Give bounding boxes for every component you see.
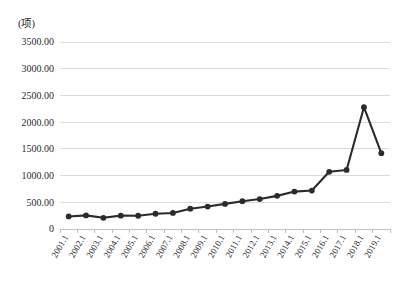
data-point-marker xyxy=(205,204,211,210)
chart-container: (项) 3500.003000.002500.002000.001500.001… xyxy=(0,0,414,285)
y-axis-unit-label: (项) xyxy=(18,18,35,30)
data-point-marker xyxy=(135,213,141,219)
data-point-marker xyxy=(170,210,176,216)
y-axis-tick-labels: 3500.003000.002500.002000.001500.001000.… xyxy=(22,36,55,234)
data-point-marker xyxy=(66,214,72,220)
data-point-marker xyxy=(257,196,263,202)
data-point-marker xyxy=(187,206,193,212)
data-point-marker xyxy=(101,215,107,221)
data-point-marker xyxy=(239,198,245,204)
data-point-marker xyxy=(361,104,367,110)
data-point-marker xyxy=(83,212,89,218)
x-axis-tick-labels: 2001.12002.12003.12004.12005.12006.12007… xyxy=(49,233,383,259)
data-point-marker xyxy=(153,211,159,217)
y-axis-tick-label: 0 xyxy=(49,223,54,234)
data-point-marker xyxy=(344,167,350,173)
x-axis xyxy=(60,229,390,233)
line-chart: (项) 3500.003000.002500.002000.001500.001… xyxy=(0,0,414,285)
data-point-marker xyxy=(222,201,228,207)
data-point-marker xyxy=(118,213,124,219)
y-axis-tick-label: 2000.00 xyxy=(22,117,55,128)
y-axis-tick-label: 1500.00 xyxy=(22,143,55,154)
x-axis-tick-label: 2019.1 xyxy=(362,233,383,259)
y-axis-tick-label: 2500.00 xyxy=(22,90,55,101)
y-axis-tick-label: 3000.00 xyxy=(22,63,55,74)
y-axis-tick-label: 1000.00 xyxy=(22,170,55,181)
gridlines xyxy=(60,42,390,202)
data-point-marker xyxy=(309,188,315,194)
data-point-markers xyxy=(66,104,384,220)
data-point-marker xyxy=(274,193,280,199)
data-point-marker xyxy=(292,189,298,195)
y-axis-tick-label: 500.00 xyxy=(27,197,55,208)
data-point-marker xyxy=(378,150,384,156)
data-point-marker xyxy=(326,169,332,175)
y-axis-tick-label: 3500.00 xyxy=(22,36,55,47)
